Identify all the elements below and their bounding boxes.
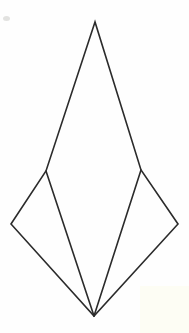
outer-outline-path xyxy=(11,22,178,316)
central-triangle-right-edge-path xyxy=(94,170,141,316)
kite-line-drawing xyxy=(0,0,189,333)
central-triangle-left-edge-path xyxy=(46,171,94,316)
figure-canvas xyxy=(0,0,189,333)
